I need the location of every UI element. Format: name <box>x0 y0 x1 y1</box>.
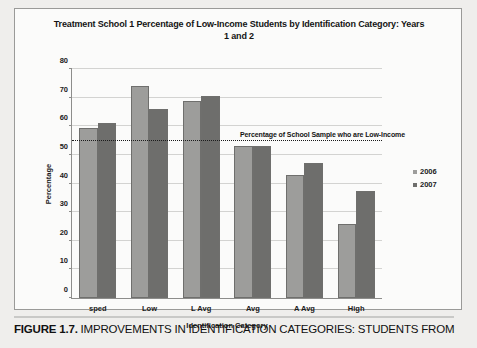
bar-2006-avg <box>234 146 253 298</box>
y-tick-label: 0 <box>28 285 68 294</box>
caption-number: FIGURE 1.7. <box>14 323 78 335</box>
bar-2006-sped <box>79 128 98 298</box>
reference-line <box>72 140 382 141</box>
bar-group: sped <box>72 69 124 298</box>
y-tick-label: 10 <box>28 256 68 265</box>
bar-2007-sped <box>98 123 117 298</box>
caption-divider <box>14 316 454 318</box>
x-tick-label: Low <box>124 304 176 313</box>
caption-body: IMPROVEMENTS IN IDENTIFICATION CATEGORIE… <box>78 323 455 335</box>
y-tick-label: 70 <box>28 85 68 94</box>
bar-group: Avg <box>227 69 279 298</box>
figure-caption: FIGURE 1.7. IMPROVEMENTS IN IDENTIFICATI… <box>14 316 462 335</box>
plot-area: 01020304050607080 Percentage Identificat… <box>71 69 382 299</box>
x-tick-label: L Avg <box>175 304 227 313</box>
bar-2007-l-avg <box>201 96 220 298</box>
bar-2006-low <box>131 86 150 298</box>
legend-item-2006: 2006 <box>413 167 437 176</box>
bar-2007-low <box>149 109 168 298</box>
bar-group: High <box>330 69 382 298</box>
bar-group: L Avg <box>175 69 227 298</box>
caption-line: FIGURE 1.7. IMPROVEMENTS IN IDENTIFICATI… <box>14 323 462 335</box>
legend-label: 2006 <box>420 167 437 176</box>
figure-panel: Treatment School 1 Percentage of Low-Inc… <box>14 8 462 310</box>
x-tick-label: sped <box>72 304 124 313</box>
bar-2007-high <box>356 191 375 298</box>
legend-item-2007: 2007 <box>413 180 437 189</box>
chart-legend: 20062007 <box>413 167 437 193</box>
bar-2007-avg <box>253 146 272 298</box>
chart-title: Treatment School 1 Percentage of Low-Inc… <box>53 19 425 42</box>
bar-2006-a-avg <box>286 175 305 298</box>
x-tick-label: Avg <box>227 304 279 313</box>
y-tick-label: 50 <box>28 142 68 151</box>
bar-group: A Avg <box>279 69 331 298</box>
y-tick-label: 80 <box>28 56 68 65</box>
y-axis-label: Percentage <box>44 163 53 203</box>
bar-group: Low <box>124 69 176 298</box>
legend-swatch-icon <box>413 170 417 174</box>
y-tick-label: 60 <box>28 113 68 122</box>
page-background: Treatment School 1 Percentage of Low-Inc… <box>0 0 477 348</box>
y-tick-label: 20 <box>28 228 68 237</box>
bar-2006-l-avg <box>183 101 202 299</box>
bar-2006-high <box>338 224 357 298</box>
x-tick-label: A Avg <box>279 304 331 313</box>
reference-line-label: Percentage of School Sample who are Low-… <box>240 131 405 138</box>
bar-2007-a-avg <box>304 163 323 298</box>
legend-label: 2007 <box>420 180 437 189</box>
x-tick-label: High <box>330 304 382 313</box>
legend-swatch-icon <box>413 183 417 187</box>
